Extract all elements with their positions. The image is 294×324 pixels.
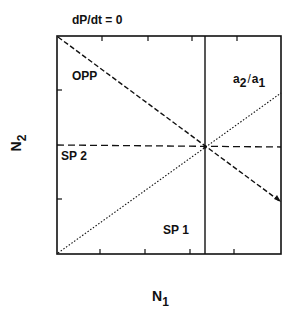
x-axis-letter: N	[152, 288, 162, 304]
x-axis-subscript: 1	[162, 295, 169, 309]
y-axis-letter: N	[8, 141, 24, 151]
label-opp: OPP	[72, 70, 97, 82]
opp-isocline	[58, 37, 281, 202]
phase-plane-diagram	[0, 0, 294, 324]
diagram-title: dP/dt = 0	[72, 14, 122, 26]
y-axis-label: N2	[9, 135, 23, 152]
equilibrium-point	[203, 145, 207, 149]
label-slope-ratio: a2/a1	[233, 73, 265, 85]
ratio-slash: /	[247, 72, 250, 86]
label-sp1: SP 1	[163, 224, 189, 236]
ratio-sub-bottom: 1	[258, 76, 265, 90]
y-axis-subscript: 2	[15, 135, 29, 142]
sp2-isocline	[57, 145, 281, 147]
arrow-head-icon	[274, 195, 281, 202]
ratio-sub-top: 2	[240, 76, 247, 90]
x-axis-label: N1	[152, 289, 169, 303]
ratio-a-top: a	[233, 72, 240, 86]
label-sp2: SP 2	[61, 150, 87, 162]
